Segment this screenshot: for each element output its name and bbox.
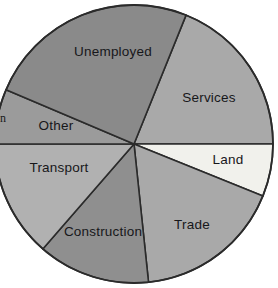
margin-annotation: n (0, 111, 6, 125)
pie-slice-label-services: Services (182, 90, 235, 105)
pie-slice-label-transport: Transport (29, 160, 88, 175)
pie-slice-label-unemployed: Unemployed (74, 44, 152, 59)
pie-slice-label-land: Land (213, 152, 244, 167)
pie-slice-label-construction: Construction (64, 224, 142, 239)
pie-chart-canvas: ServicesLandTradeConstructionTransportOt… (0, 0, 278, 288)
pie-slice-label-other: Other (39, 118, 74, 133)
pie-chart: ServicesLandTradeConstructionTransportOt… (0, 0, 278, 288)
pie-slice-label-trade: Trade (174, 217, 210, 232)
